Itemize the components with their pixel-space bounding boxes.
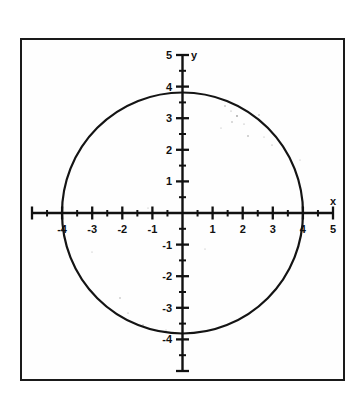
y-tick-label-minus-4: -4 bbox=[162, 333, 173, 345]
x-tick-label-3: 3 bbox=[270, 223, 276, 235]
x-tick-label-2: 2 bbox=[240, 223, 246, 235]
x-tick-label-4: 4 bbox=[300, 223, 307, 235]
y-tick-label-minus-1: -1 bbox=[162, 239, 172, 251]
x-tick-label-5: 5 bbox=[330, 223, 336, 235]
graph-page: -4 -3 -2 -1 1 2 3 4 5 5 4 3 2 1 -1 -2 -3… bbox=[0, 0, 360, 398]
y-tick-label-3: 3 bbox=[166, 112, 172, 124]
y-tick-label-4: 4 bbox=[166, 81, 173, 93]
x-tick-label-minus-3: -3 bbox=[87, 223, 97, 235]
x-tick-label-minus-1: -1 bbox=[148, 223, 158, 235]
x-tick-label-minus-4: -4 bbox=[57, 223, 68, 235]
x-axis-label: x bbox=[330, 195, 337, 207]
y-axis-label: y bbox=[191, 49, 198, 61]
y-tick-label-1: 1 bbox=[166, 175, 172, 187]
y-tick-label-minus-2: -2 bbox=[162, 270, 172, 282]
x-tick-label-minus-2: -2 bbox=[117, 223, 127, 235]
x-tick-label-1: 1 bbox=[210, 223, 216, 235]
y-tick-label-minus-3: -3 bbox=[162, 302, 172, 314]
y-tick-label-5: 5 bbox=[166, 49, 172, 61]
y-tick-label-2: 2 bbox=[166, 144, 172, 156]
coordinate-plane-plot: -4 -3 -2 -1 1 2 3 4 5 5 4 3 2 1 -1 -2 -3… bbox=[0, 0, 360, 398]
